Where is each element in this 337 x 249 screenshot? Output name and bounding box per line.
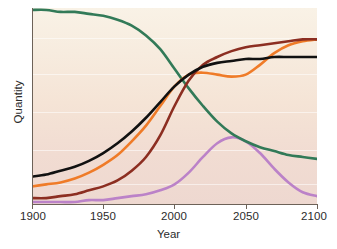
series-line-maroon-rising [32,39,317,198]
x-axis-line [32,204,318,205]
plot-area [32,8,317,204]
x-tick-2000 [174,205,175,209]
series-line-green-declining [32,10,317,159]
series-line-orange-rising-dip [32,39,317,186]
y-axis-line [32,8,33,205]
x-axis-label: Year [0,228,337,240]
x-tick-label-1900: 1900 [20,210,46,222]
y-axis-label: Quantity [12,57,24,147]
series-line-black-rising [32,57,317,177]
x-tick-2050 [246,205,247,209]
x-tick-1950 [103,205,104,209]
series-canvas [32,8,317,204]
x-tick-2100 [317,205,318,209]
x-tick-label-2050: 2050 [233,210,259,222]
chart-figure: 1900 1950 2000 2050 2100 Year Quantity [0,0,337,249]
series-line-purple-bell [32,137,317,202]
x-tick-label-2100: 2100 [301,210,327,222]
x-tick-1900 [32,205,33,209]
x-tick-label-1950: 1950 [90,210,116,222]
x-tick-label-2000: 2000 [161,210,187,222]
